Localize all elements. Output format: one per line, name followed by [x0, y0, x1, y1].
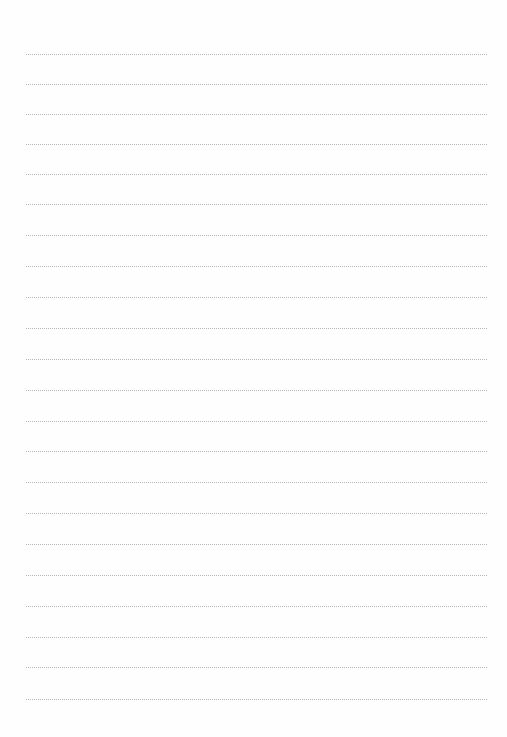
ruled-line: [26, 144, 487, 145]
ruled-line: [26, 390, 487, 391]
ruled-line: [26, 204, 487, 205]
ruled-line: [26, 114, 487, 115]
ruled-line: [26, 54, 487, 55]
ruled-line: [26, 297, 487, 298]
ruled-line: [26, 606, 487, 607]
ruled-line: [26, 174, 487, 175]
ruled-line: [26, 266, 487, 267]
ruled-line: [26, 699, 487, 700]
lined-paper-sheet: [0, 0, 507, 737]
ruled-line: [26, 667, 487, 668]
ruled-line: [26, 451, 487, 452]
ruled-line: [26, 513, 487, 514]
ruled-line: [26, 637, 487, 638]
ruled-line: [26, 359, 487, 360]
ruled-line: [26, 84, 487, 85]
ruled-line: [26, 328, 487, 329]
ruled-line: [26, 421, 487, 422]
ruled-line: [26, 575, 487, 576]
ruled-line: [26, 235, 487, 236]
ruled-line: [26, 544, 487, 545]
ruled-line: [26, 482, 487, 483]
